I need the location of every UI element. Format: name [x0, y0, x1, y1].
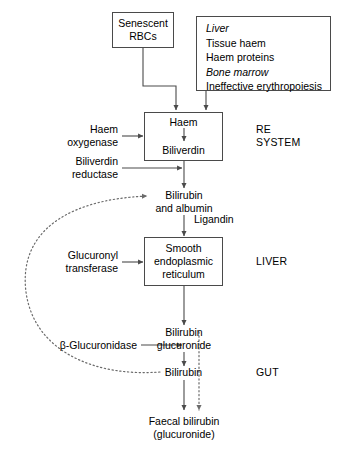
node-senescent-rbcs: Senescent RBCs: [112, 12, 174, 48]
haem-source-item-tissue-haem: Tissue haem: [206, 36, 330, 51]
haem-source-item-liver: Liver: [206, 21, 330, 36]
haem-oxygenase-line-1: Haem: [30, 123, 118, 136]
bilirubin-gut-label: Bilirubin: [144, 366, 223, 379]
haem-source-item-bone-marrow: Bone marrow: [206, 65, 330, 80]
biliverdin-label: Biliverdin: [162, 144, 205, 157]
gut-label: GUT: [256, 366, 279, 379]
haem-source-label: Bone marrow: [206, 66, 268, 78]
bilirubin-glucuronide-line-2: glucuronide: [134, 339, 234, 352]
senescent-rbcs-line-1: Senescent: [118, 17, 168, 30]
smooth-er-line-2: endoplasmic: [154, 255, 213, 268]
region-label-re-system: RE SYSTEM: [256, 123, 300, 149]
node-haem-biliverdin: Haem Biliverdin: [144, 112, 223, 161]
haem-source-item-haem-proteins: Haem proteins: [206, 50, 330, 65]
glucuronyl-transferase-line-1: Glucuronyl: [24, 249, 118, 262]
faecal-bilirubin-line-2: (glucuronide): [119, 428, 249, 441]
haem-label: Haem: [169, 116, 197, 129]
biliverdin-reductase-line-1: Biliverdin: [30, 155, 118, 168]
bilirubin-metabolism-diagram: Senescent RBCs Liver Tissue haem Haem pr…: [0, 0, 346, 451]
transport-label-ligandin: Ligandin: [194, 213, 234, 226]
smooth-er-line-3: reticulum: [162, 268, 205, 281]
haem-source-label: Ineffective erythropoiesis: [206, 80, 322, 92]
beta-glucuronidase-label: β-Glucuronidase: [39, 339, 137, 352]
biliverdin-reductase-line-2: reductase: [30, 168, 118, 181]
bilirubin-albumin-line-1: Bilirubin: [134, 189, 234, 202]
smooth-er-line-1: Smooth: [165, 242, 201, 255]
senescent-rbcs-line-2: RBCs: [129, 30, 156, 43]
enzyme-label-glucuronyl-transferase: Glucuronyl transferase: [24, 249, 118, 275]
liver-label: LIVER: [256, 255, 287, 268]
enzyme-label-haem-oxygenase: Haem oxygenase: [30, 123, 118, 149]
node-haem-sources: Liver Tissue haem Haem proteins Bone mar…: [196, 16, 331, 91]
node-bilirubin-gut: Bilirubin: [144, 366, 223, 379]
enzyme-label-biliverdin-reductase: Biliverdin reductase: [30, 155, 118, 181]
node-smooth-endoplasmic-reticulum: Smooth endoplasmic reticulum: [144, 237, 223, 286]
re-system-line-1: RE: [256, 123, 300, 136]
bilirubin-glucuronide-line-1: Bilirubin: [134, 326, 234, 339]
node-bilirubin-glucuronide: Bilirubin glucuronide: [134, 326, 234, 352]
haem-source-label: Tissue haem: [206, 37, 266, 49]
haem-oxygenase-line-2: oxygenase: [30, 136, 118, 149]
haem-source-item-ineffective-erythropoiesis: Ineffective erythropoiesis: [206, 79, 330, 94]
region-label-liver: LIVER: [256, 255, 287, 268]
enzyme-label-beta-glucuronidase: β-Glucuronidase: [39, 339, 137, 352]
node-faecal-bilirubin: Faecal bilirubin (glucuronide): [119, 415, 249, 441]
haem-source-label: Haem proteins: [206, 51, 274, 63]
haem-source-label: Liver: [206, 22, 229, 34]
glucuronyl-transferase-line-2: transferase: [24, 262, 118, 275]
node-bilirubin-and-albumin: Bilirubin and albumin: [134, 189, 234, 215]
ligandin-label: Ligandin: [194, 213, 234, 226]
re-system-line-2: SYSTEM: [256, 136, 300, 149]
region-label-gut: GUT: [256, 366, 279, 379]
faecal-bilirubin-line-1: Faecal bilirubin: [119, 415, 249, 428]
